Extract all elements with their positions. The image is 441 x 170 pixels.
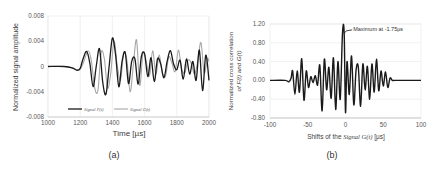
chart-a-y-axis-label: Normalized signal amplitude xyxy=(12,23,20,111)
svg-text:1200: 1200 xyxy=(73,119,88,126)
svg-text:1.20: 1.20 xyxy=(253,20,266,27)
annotation-leader-line xyxy=(344,30,352,34)
svg-text:1600: 1600 xyxy=(138,119,153,126)
chart-panel-b: 1.200.800.400.00-0.40-0.80 -100-50050100… xyxy=(227,20,427,160)
svg-text:0.004: 0.004 xyxy=(28,37,44,44)
x-label-suffix: [µs] xyxy=(372,133,385,141)
svg-text:1000: 1000 xyxy=(41,119,56,126)
svg-text:-0.004: -0.004 xyxy=(26,88,44,95)
chart-b-x-ticks: -100-50050100 xyxy=(264,121,427,128)
legend-label-f: Signal F(t) xyxy=(84,107,104,112)
svg-text:0.008: 0.008 xyxy=(28,12,44,19)
svg-text:2000: 2000 xyxy=(202,119,217,126)
chart-b-y-axis-label: Normalized cross correlation of F(t) and… xyxy=(227,31,242,110)
svg-text:-0.80: -0.80 xyxy=(251,114,266,121)
chart-a-caption: (a) xyxy=(109,150,120,160)
svg-text:1800: 1800 xyxy=(170,119,185,126)
series-signal-f xyxy=(48,38,209,95)
y-label-line1: Normalized cross correlation xyxy=(227,31,234,110)
svg-text:100: 100 xyxy=(416,121,427,128)
svg-text:50: 50 xyxy=(380,121,388,128)
chart-b-caption: (b) xyxy=(327,150,338,160)
svg-text:0: 0 xyxy=(40,63,44,70)
svg-text:-100: -100 xyxy=(264,121,277,128)
svg-text:-0.40: -0.40 xyxy=(251,95,266,102)
chart-a-x-axis-label: Time [µs] xyxy=(113,129,146,138)
svg-text:0.80: 0.80 xyxy=(253,39,266,46)
y-label-line2: of F(t) and G(t) xyxy=(235,51,242,92)
svg-text:0.40: 0.40 xyxy=(253,58,266,65)
chart-a-y-ticks: 0.0080.0040-0.004-0.008 xyxy=(26,12,44,120)
svg-text:0.00: 0.00 xyxy=(253,76,266,83)
legend-label-g: Signal G(t) xyxy=(130,107,151,112)
annotation-maximum: Maximum at -1.75µs xyxy=(353,26,403,32)
chart-b-annotation: Maximum at -1.75µs xyxy=(344,26,403,33)
svg-text:-50: -50 xyxy=(303,121,313,128)
svg-text:0: 0 xyxy=(344,121,348,128)
x-label-prefix: Shifts of the xyxy=(307,133,343,140)
chart-b-x-axis-label: Shifts of the Signal G(t) [µs] xyxy=(307,133,385,141)
x-label-italic: Signal G(t) xyxy=(343,133,372,141)
chart-a-x-ticks: 100012001400160018002000 xyxy=(41,119,217,126)
figure: 0.0080.0040-0.004-0.008 1000120014001600… xyxy=(0,0,441,170)
svg-text:1400: 1400 xyxy=(105,119,120,126)
chart-b-y-ticks: 1.200.800.400.00-0.40-0.80 xyxy=(251,20,266,121)
chart-panel-a: 0.0080.0040-0.004-0.008 1000120014001600… xyxy=(12,12,216,160)
